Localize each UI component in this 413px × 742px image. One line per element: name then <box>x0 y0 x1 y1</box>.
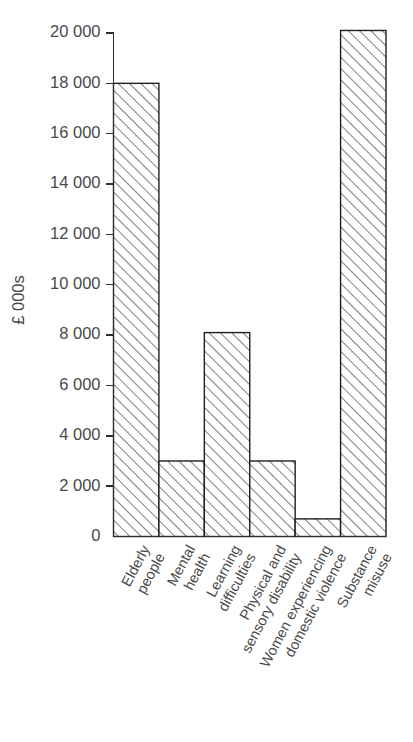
y-axis-tick-label: 12 000 <box>50 224 100 242</box>
bar <box>250 461 295 537</box>
y-axis-tick-label: 0 <box>91 526 100 544</box>
y-axis-tick-label: 2 000 <box>59 476 100 494</box>
y-axis-tick-label: 10 000 <box>50 274 100 292</box>
bar <box>341 30 386 536</box>
bar <box>159 461 204 537</box>
bar <box>295 519 340 537</box>
y-axis-tick-label: 18 000 <box>50 73 100 91</box>
y-axis-tick-label: 6 000 <box>59 375 100 393</box>
y-axis-tick-label: 16 000 <box>50 123 100 141</box>
y-axis-tick-label: 4 000 <box>59 425 100 443</box>
chart-svg-canvas: 02 0004 0006 0008 00010 00012 00014 0001… <box>0 0 413 742</box>
bar <box>204 333 249 537</box>
bar <box>114 83 159 536</box>
y-axis-tick-label: 8 000 <box>59 324 100 342</box>
y-axis-tick-label: 20 000 <box>50 22 100 40</box>
bar-chart-figure: 02 0004 0006 0008 00010 00012 00014 0001… <box>0 0 413 742</box>
y-axis-tick-label: 14 000 <box>50 173 100 191</box>
y-axis-title: £ 000s <box>9 275 27 325</box>
